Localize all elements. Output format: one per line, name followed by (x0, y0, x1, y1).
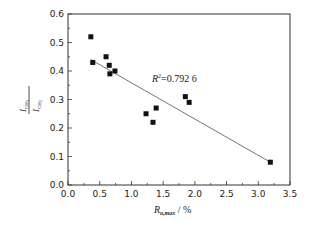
data-point (88, 34, 93, 39)
data-point (107, 63, 112, 68)
scatter-chart: 0.00.51.01.52.02.53.03.50.00.10.20.30.40… (0, 0, 315, 229)
x-tick-label: 2.5 (219, 189, 233, 199)
x-tick-label: 3.5 (283, 189, 297, 199)
y-tick-label: 0.1 (50, 152, 64, 162)
data-point (150, 120, 155, 125)
y-tick-label: 0.5 (50, 38, 64, 48)
x-tick-label: 2.0 (188, 189, 203, 199)
data-point (144, 111, 149, 116)
x-axis-label: Ro,max / % (153, 204, 191, 216)
data-point (154, 106, 159, 111)
svg-text:ICH3: ICH3 (18, 100, 30, 113)
data-point (268, 160, 273, 165)
data-point (104, 54, 109, 59)
data-point (107, 71, 112, 76)
x-tick-label: 0.5 (93, 189, 107, 199)
x-tick-label: 1.5 (156, 189, 170, 199)
y-tick-label: 0.0 (50, 180, 65, 190)
data-point (187, 100, 192, 105)
data-point (183, 94, 188, 99)
y-tick-label: 0.6 (50, 9, 65, 19)
y-axis-label: ICH3 ICH2 (18, 86, 43, 114)
x-tick-label: 1.0 (124, 189, 139, 199)
r-squared-annotation: R2=0.792 6 (151, 73, 197, 84)
plot-frame (68, 14, 290, 185)
svg-text:ICH2: ICH2 (31, 100, 43, 113)
x-tick-label: 3.0 (251, 189, 266, 199)
y-tick-label: 0.4 (50, 66, 65, 76)
plot-area: 0.00.51.01.52.02.53.03.50.00.10.20.30.40… (50, 9, 297, 199)
data-point (90, 60, 95, 65)
y-tick-label: 0.3 (50, 95, 64, 105)
y-tick-label: 0.2 (50, 123, 64, 133)
data-point (112, 69, 117, 74)
x-tick-label: 0.0 (61, 189, 76, 199)
